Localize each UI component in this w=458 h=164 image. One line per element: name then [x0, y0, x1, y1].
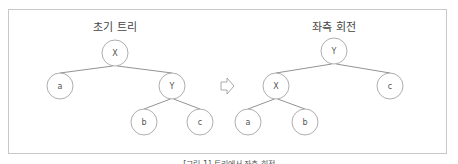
svg-text:c: c: [388, 82, 392, 91]
right-arrow-icon: [221, 78, 234, 94]
svg-text:Y: Y: [331, 47, 337, 56]
svg-text:X: X: [273, 82, 279, 91]
tree-diagram: XaYbc YXcab: [0, 0, 458, 164]
tree-node-a: a: [47, 73, 73, 99]
tree-edge: [276, 64, 332, 73]
tree-edge: [60, 66, 113, 73]
tree-node-c: c: [377, 73, 403, 99]
tree-edge: [174, 99, 200, 109]
svg-text:b: b: [302, 118, 307, 127]
figure-caption: [그림 1] 트리에서 좌측 회전: [183, 158, 275, 164]
tree-node-b: b: [131, 109, 157, 135]
tree-edge: [117, 66, 172, 73]
svg-text:X: X: [112, 49, 118, 58]
left-rotated-tree: YXcab: [235, 38, 403, 135]
tree-edge: [144, 99, 170, 109]
svg-text:c: c: [198, 118, 202, 127]
tree-node-X: X: [102, 40, 128, 66]
tree-edge: [248, 99, 274, 109]
tree-node-Y: Y: [321, 38, 347, 64]
tree-edge: [278, 99, 305, 109]
tree-edge: [336, 64, 390, 73]
tree-node-a: a: [235, 109, 261, 135]
svg-text:a: a: [246, 118, 251, 127]
svg-text:a: a: [58, 82, 63, 91]
svg-text:Y: Y: [169, 82, 175, 91]
tree-node-X: X: [263, 73, 289, 99]
svg-text:b: b: [141, 118, 146, 127]
tree-node-Y: Y: [159, 73, 185, 99]
tree-node-b: b: [292, 109, 318, 135]
initial-tree: XaYbc: [47, 40, 213, 135]
tree-node-c: c: [187, 109, 213, 135]
